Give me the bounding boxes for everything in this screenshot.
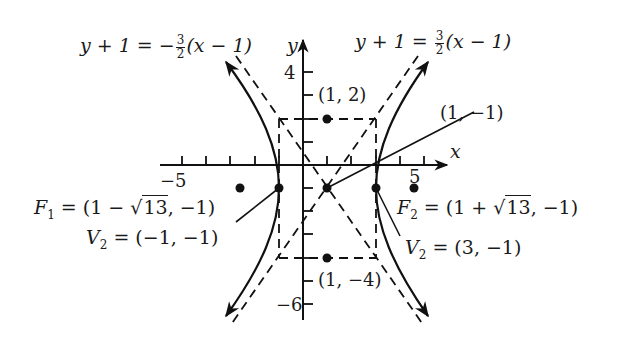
asymptote-right-lhs: y + 1 = [355, 30, 434, 52]
tick-label-y-neg6: −6 [276, 296, 303, 314]
point-top [323, 115, 332, 124]
asymptote-left-rhs: (x − 1) [186, 34, 252, 56]
leader-vertex-left [236, 188, 279, 222]
y-axis [303, 40, 313, 320]
x-axis-label: x [450, 142, 461, 161]
label-vertex-left: V2 = (−1, −1) [86, 228, 218, 251]
left-branch-upper [226, 62, 279, 188]
point-bottom [323, 254, 332, 263]
vertex-right-point [372, 184, 381, 193]
asymptote-right-fraction: 32 [435, 30, 445, 56]
tick-label-y-4: 4 [284, 64, 295, 82]
y-axis-ticks [303, 72, 313, 304]
asymptote-right-label: y + 1 = 32(x − 1) [355, 30, 511, 56]
label-point-top: (1, 2) [318, 86, 366, 104]
focus-left-point [236, 184, 245, 193]
label-point-bottom: (1, −4) [318, 271, 381, 289]
asymptote-left-lhs: y + 1 = − [80, 34, 175, 56]
asymptote-right-rhs: (x − 1) [445, 30, 511, 52]
vertex-left-point [275, 184, 284, 193]
center-point [323, 184, 332, 193]
label-vertex-right: V2 = (3, −1) [405, 238, 521, 261]
left-branch-lower [226, 188, 279, 316]
label-center: (1, −1) [440, 104, 503, 122]
points [236, 115, 419, 263]
asymptote-left-label: y + 1 = −32(x − 1) [80, 34, 252, 60]
y-axis-label: y [287, 36, 298, 55]
asymptote-left-fraction: 32 [176, 34, 186, 60]
tick-label-x-5: 5 [409, 168, 420, 186]
label-focus-right: F2 = (1 + √13, −1) [397, 198, 578, 221]
tick-label-x-neg5: −5 [160, 172, 187, 190]
label-focus-left: F1 = (1 − √13, −1) [34, 198, 215, 221]
